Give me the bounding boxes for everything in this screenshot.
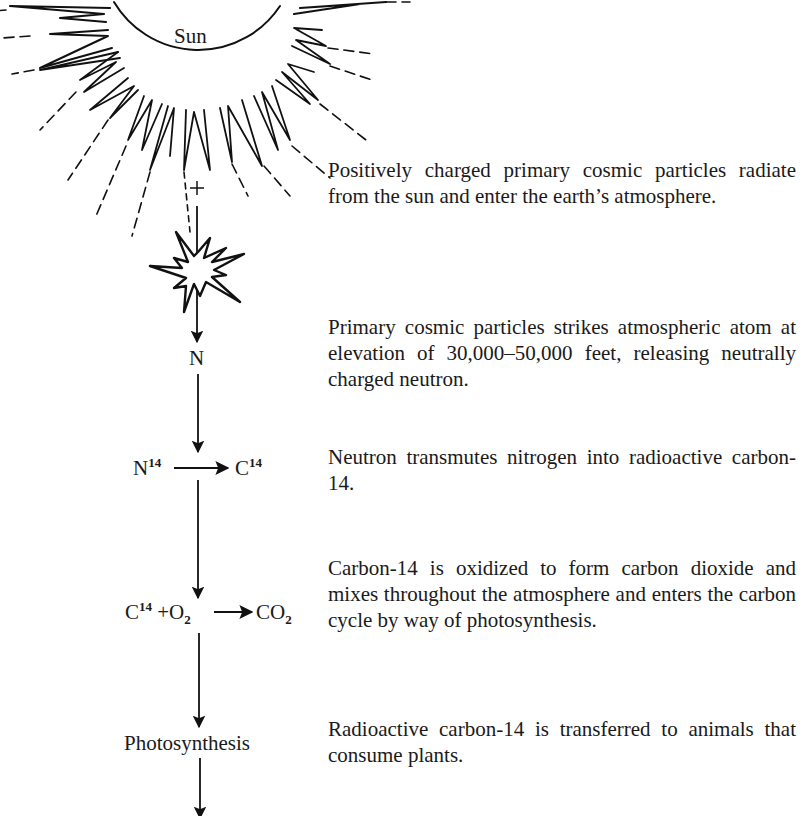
photosynthesis-label: Photosynthesis [124,731,250,755]
carbon-mass-number: 14 [249,455,262,470]
description-oxidation: Carbon-14 is oxidized to form carbon dio… [328,555,796,633]
plus-oxygen: +O [152,600,184,624]
description-neutron-release: Primary cosmic particles strikes atmosph… [328,314,796,392]
carbon-mass-number: 14 [139,599,152,614]
description-transfer-to-animals: Radioactive carbon-14 is transferred to … [328,716,796,768]
oxygen-subscript: 2 [184,612,191,627]
diagram-art [0,0,806,816]
description-cosmic-particles: Positively charged primary cosmic partic… [328,157,796,209]
carbon-dioxide: CO [256,600,285,624]
nitrogen-mass-number: 14 [148,455,161,470]
oxidation-right: CO2 [256,600,292,627]
transmutation-right: C14 [235,456,262,483]
oxidation-left: C14 +O2 [125,600,191,627]
transmutation-left: N14 [133,456,161,483]
sun-label: Sun [174,24,207,48]
carbon-symbol: C [125,600,139,624]
neutron-label: N [189,346,204,370]
positive-charge-icon [190,181,204,195]
carbon-dioxide-subscript: 2 [285,612,292,627]
nitrogen-symbol: N [133,456,148,480]
carbon-symbol: C [235,456,249,480]
description-transmutation: Neutron transmutes nitrogen into radioac… [328,444,796,496]
